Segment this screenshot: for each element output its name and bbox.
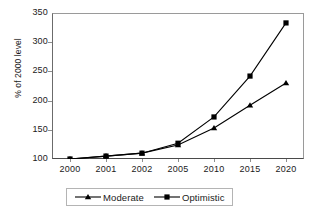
y-tick-label: 200: [4, 96, 48, 105]
series-line: [70, 83, 286, 159]
x-tick-label: 2015: [230, 164, 270, 174]
x-tick-mark: [106, 159, 107, 162]
y-axis: 100150200250300350: [0, 0, 48, 216]
x-tick-label: 2020: [266, 164, 306, 174]
y-tick-label: 350: [4, 8, 48, 17]
series-optimistic: [67, 20, 288, 159]
x-tick-mark: [286, 159, 287, 162]
x-tick-mark: [178, 159, 179, 162]
square-marker: [283, 20, 288, 25]
square-marker: [211, 114, 216, 119]
series-canvas: [52, 13, 304, 159]
line-chart: 100150200250300350 % of 2000 level 20002…: [0, 0, 325, 216]
x-tick-mark: [70, 159, 71, 162]
square-marker: [247, 73, 252, 78]
square-marker: [103, 153, 108, 158]
y-tick-label: 150: [4, 125, 48, 134]
square-marker: [164, 194, 169, 199]
x-tick-label: 2001: [86, 164, 126, 174]
legend-entry-optimistic: Optimistic: [153, 192, 225, 203]
y-tick-label: 300: [4, 37, 48, 46]
x-tick-mark: [250, 159, 251, 162]
x-tick-label: 2000: [50, 164, 90, 174]
series-moderate: [67, 80, 289, 159]
y-tick-label: 250: [4, 66, 48, 75]
x-tick-label: 2002: [122, 164, 162, 174]
legend-entry-moderate: Moderate: [74, 192, 144, 203]
x-tick-mark: [142, 159, 143, 162]
legend-sample-triangle-marker: [74, 192, 102, 202]
y-axis-title: % of 2000 level: [13, 13, 23, 123]
chart-legend: ModerateOptimistic: [66, 188, 233, 206]
triangle-marker: [283, 80, 289, 85]
x-tick-label: 2010: [194, 164, 234, 174]
triangle-marker: [247, 102, 253, 107]
legend-sample-square-marker: [153, 192, 181, 202]
square-marker: [139, 151, 144, 156]
x-tick-mark: [214, 159, 215, 162]
square-marker: [175, 141, 180, 146]
x-tick-label: 2005: [158, 164, 198, 174]
series-line: [70, 23, 286, 159]
y-tick-label: 100: [4, 154, 48, 163]
legend-label: Optimistic: [182, 192, 225, 203]
legend-label: Moderate: [103, 192, 144, 203]
triangle-marker: [211, 125, 217, 130]
